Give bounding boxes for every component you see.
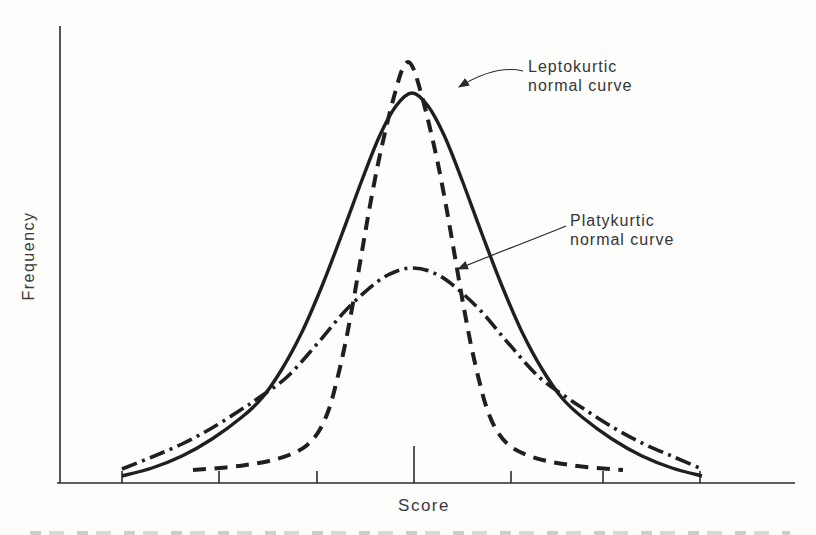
curves-group bbox=[122, 62, 702, 476]
leptokurtic-label-line2: normal curve bbox=[528, 76, 632, 95]
curve-leptokurtic bbox=[193, 62, 623, 470]
platykurtic-arrow bbox=[458, 226, 566, 269]
platykurtic-label: Platykurtic normal curve bbox=[570, 211, 674, 249]
platykurtic-label-line1: Platykurtic bbox=[570, 211, 674, 230]
leptokurtic-label-line1: Leptokurtic bbox=[528, 57, 632, 76]
curve-normal-curve bbox=[122, 93, 702, 476]
leptokurtic-arrow bbox=[459, 69, 523, 87]
platykurtic-label-line2: normal curve bbox=[570, 230, 674, 249]
figure-canvas bbox=[0, 0, 816, 535]
kurtosis-figure: Frequency Score Leptokurtic normal curve… bbox=[0, 0, 816, 535]
leptokurtic-label: Leptokurtic normal curve bbox=[528, 57, 632, 95]
x-axis-ticks bbox=[122, 446, 700, 483]
cut-off-caption-strip bbox=[30, 531, 790, 535]
x-axis-label: Score bbox=[398, 496, 450, 515]
curve-platykurtic bbox=[122, 268, 702, 469]
y-axis-label: Frequency bbox=[19, 211, 38, 300]
